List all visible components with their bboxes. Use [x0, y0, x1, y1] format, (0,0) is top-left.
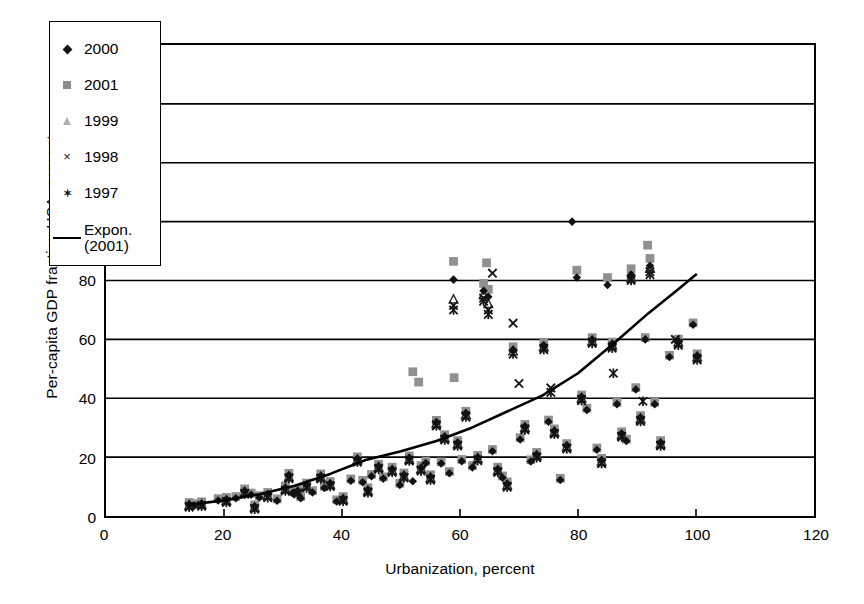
legend-marker-triangle-icon — [50, 112, 84, 130]
y-tick-label-40: 40 — [52, 391, 96, 407]
chart-legend: 200020011999×1998✶1997Expon. (2001) — [49, 21, 161, 266]
legend-item-1999[interactable]: 1999 — [50, 104, 162, 138]
point-2001 — [643, 241, 652, 250]
point-2001 — [646, 254, 655, 263]
x-tick-label-120: 120 — [786, 527, 846, 543]
legend-label: Expon. (2001) — [84, 222, 132, 255]
point-1998 — [515, 379, 523, 387]
legend-marker-square-icon — [50, 76, 84, 94]
point-2001 — [603, 273, 612, 282]
point-2000 — [568, 217, 577, 226]
x-axis-tick-labels: 020406080100120 — [0, 527, 864, 549]
legend-label: 1997 — [84, 185, 118, 201]
point-1998 — [488, 269, 496, 277]
x-axis-title: Urbanization, percent — [104, 560, 816, 578]
star-glyph-icon: ✶ — [50, 186, 84, 200]
point-1997 — [449, 305, 457, 315]
x-tick-label-60: 60 — [430, 527, 490, 543]
data-series-layer — [185, 217, 702, 514]
legend-item-2001[interactable]: 2001 — [50, 68, 162, 102]
x-axis-tickmarks — [224, 509, 696, 516]
gridlines — [106, 104, 814, 457]
series-2000 — [185, 217, 702, 510]
x-glyph-icon: × — [50, 150, 84, 164]
y-tick-label-20: 20 — [52, 451, 96, 467]
point-2000 — [449, 275, 458, 284]
point-2001 — [408, 367, 417, 376]
x-tick-label-0: 0 — [74, 527, 134, 543]
x-tick-label-40: 40 — [311, 527, 371, 543]
legend-item-1998[interactable]: ×1998 — [50, 140, 162, 174]
legend-marker-diamond-icon — [50, 40, 84, 58]
point-2001 — [450, 373, 459, 382]
point-1997 — [609, 368, 617, 378]
legend-label: 2001 — [84, 77, 118, 93]
legend-marker-line-icon — [50, 229, 84, 247]
legend-item-expon-2001[interactable]: Expon. (2001) — [50, 212, 162, 264]
point-2000 — [409, 477, 418, 486]
line-glyph-icon — [53, 237, 81, 240]
series-1999 — [185, 264, 701, 511]
point-2001 — [449, 257, 458, 266]
legend-item-1997[interactable]: ✶1997 — [50, 176, 162, 210]
point-1997 — [484, 310, 492, 320]
x-tick-label-80: 80 — [549, 527, 609, 543]
y-tick-label-0: 0 — [52, 510, 96, 526]
point-2001 — [482, 258, 491, 267]
exponential-trendline — [189, 275, 696, 505]
legend-label: 1999 — [84, 113, 118, 129]
point-2000 — [603, 281, 612, 290]
y-tick-label-80: 80 — [52, 273, 96, 289]
trendline-layer — [189, 275, 696, 505]
square-glyph-icon — [63, 81, 71, 89]
plot-area — [104, 43, 816, 518]
diamond-glyph-icon — [62, 44, 72, 54]
point-2001 — [414, 378, 423, 387]
point-2001 — [572, 266, 581, 275]
legend-item-2000[interactable]: 2000 — [50, 32, 162, 66]
x-tick-label-100: 100 — [667, 527, 727, 543]
x-tick-label-20: 20 — [193, 527, 253, 543]
legend-label: 1998 — [84, 149, 118, 165]
legend-marker-star-icon: ✶ — [50, 184, 84, 202]
series-1997 — [185, 270, 701, 514]
scatter-chart-figure: Per-capita GDP fraction USA, percent 020… — [0, 0, 864, 604]
plot-canvas — [106, 45, 814, 516]
series-1998 — [185, 268, 701, 513]
y-tick-label-60: 60 — [52, 332, 96, 348]
triangle-glyph-icon — [63, 117, 71, 125]
legend-label: 2000 — [84, 41, 118, 57]
point-1998 — [509, 319, 517, 327]
legend-marker-x-icon: × — [50, 148, 84, 166]
point-1997 — [639, 396, 647, 406]
